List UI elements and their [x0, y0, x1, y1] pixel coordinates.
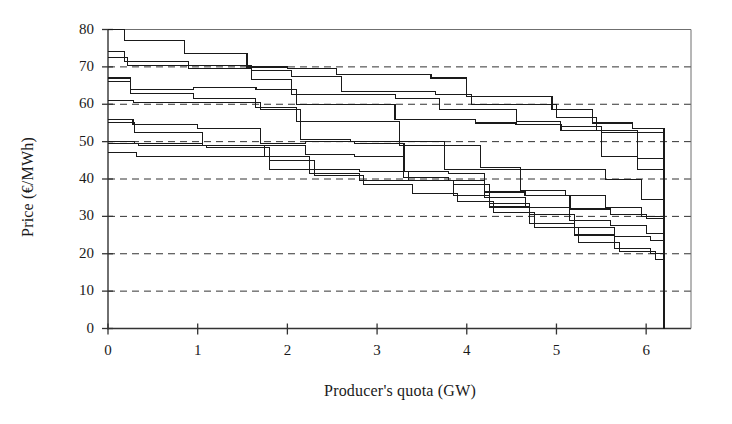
series-curve-8 — [108, 123, 664, 329]
series-curve-3 — [108, 58, 664, 329]
plot-area — [0, 0, 732, 424]
series-curve-7 — [108, 119, 664, 328]
figure: Price (€/MWh) Producer's quota (GW) 0102… — [0, 0, 732, 424]
series-curve-6 — [108, 101, 664, 329]
axis-lines — [102, 30, 691, 335]
